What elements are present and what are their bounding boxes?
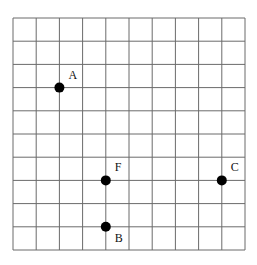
point-b: B [101, 222, 123, 245]
point-marker-icon [217, 175, 227, 185]
point-c: C [217, 160, 239, 185]
point-marker-icon [54, 83, 64, 93]
point-label: F [115, 160, 122, 174]
points-layer: AFBC [54, 68, 238, 245]
grid-diagram: AFBC [0, 0, 257, 265]
point-marker-icon [101, 175, 111, 185]
point-label: C [231, 160, 239, 174]
grid-lines [13, 18, 245, 250]
point-label: B [115, 231, 123, 245]
point-label: A [68, 68, 77, 82]
point-marker-icon [101, 222, 111, 232]
point-f: F [101, 160, 122, 185]
point-a: A [54, 68, 77, 93]
